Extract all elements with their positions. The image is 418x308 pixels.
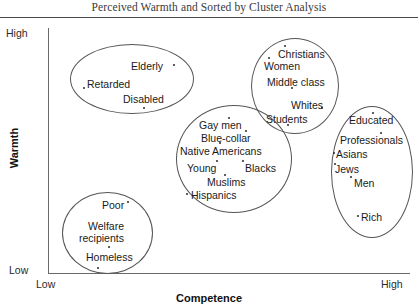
data-point bbox=[143, 107, 145, 109]
point-label-asians: Asians bbox=[336, 148, 368, 160]
point-label-poor: Poor bbox=[102, 199, 124, 211]
data-point bbox=[219, 142, 221, 144]
data-point bbox=[173, 64, 175, 66]
data-point bbox=[242, 160, 244, 162]
point-label-christians: Christians bbox=[278, 48, 325, 60]
point-label-whites: Whites bbox=[291, 99, 323, 111]
y-axis-tick-high: High bbox=[6, 27, 28, 39]
header-divider bbox=[0, 17, 418, 18]
point-label-native-americans: Native Americans bbox=[180, 145, 262, 157]
y-axis-line bbox=[48, 28, 49, 273]
point-label-homeless: Homeless bbox=[86, 251, 133, 263]
point-label-welfare-line2: recipients bbox=[79, 232, 124, 244]
data-point bbox=[83, 87, 85, 89]
data-point bbox=[284, 45, 286, 47]
point-label-disabled: Disabled bbox=[123, 93, 164, 105]
data-point bbox=[268, 57, 270, 59]
data-point bbox=[108, 246, 110, 248]
point-label-rich: Rich bbox=[361, 211, 382, 223]
data-point bbox=[333, 152, 335, 154]
point-label-gay-men: Gay men bbox=[199, 119, 242, 131]
point-label-women: Women bbox=[264, 60, 300, 72]
point-label-blacks: Blacks bbox=[245, 162, 276, 174]
data-point bbox=[97, 267, 99, 269]
point-label-young: Young bbox=[187, 162, 216, 174]
y-axis-label: Warmth bbox=[8, 118, 20, 178]
point-label-professionals: Professionals bbox=[340, 134, 403, 146]
x-axis-tick-low: Low bbox=[36, 278, 55, 290]
point-label-men: Men bbox=[354, 177, 374, 189]
data-point bbox=[357, 215, 359, 217]
chart-title: Perceived Warmth and Sorted by Cluster A… bbox=[0, 1, 418, 13]
point-label-elderly: Elderly bbox=[131, 60, 163, 72]
y-axis-tick-low: Low bbox=[9, 264, 28, 276]
x-axis-tick-high: High bbox=[381, 278, 403, 290]
x-axis-label: Competence bbox=[0, 292, 418, 304]
point-label-welfare-line1: Welfare bbox=[88, 220, 124, 232]
point-label-middle-class: Middle class bbox=[267, 76, 325, 88]
point-label-hispanics: Hispanics bbox=[191, 189, 237, 201]
point-label-educated: Educated bbox=[349, 114, 393, 126]
point-label-jews: Jews bbox=[335, 163, 359, 175]
data-point bbox=[350, 176, 352, 178]
scatter-plot: Perceived Warmth and Sorted by Cluster A… bbox=[0, 0, 418, 308]
point-label-retarded: Retarded bbox=[87, 78, 130, 90]
data-point bbox=[186, 193, 188, 195]
data-point bbox=[127, 201, 129, 203]
point-label-muslims: Muslims bbox=[207, 176, 246, 188]
point-label-blue-collar: Blue-collar bbox=[201, 132, 251, 144]
